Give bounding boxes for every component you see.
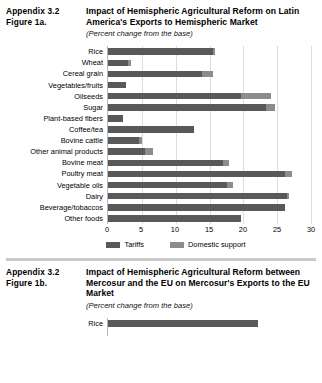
- bar-segment-tariffs: [108, 104, 266, 111]
- figure-1b-titlewrap: Impact of Hemispheric Agricultural Refor…: [84, 267, 314, 311]
- chart-row: Sugar: [108, 102, 311, 113]
- figure-1b-block: Appendix 3.2 Figure 1b. Impact of Hemisp…: [0, 261, 322, 336]
- chart-row: Oilseeds: [108, 91, 311, 102]
- category-label: Vegetable oils: [57, 181, 103, 190]
- bar-segment-tariffs: [108, 215, 241, 222]
- gridline: [311, 46, 312, 224]
- x-axis-tick: 20: [239, 225, 247, 234]
- bar-segment-tariffs: [108, 171, 285, 178]
- stacked-bar: [108, 115, 123, 122]
- figure-1b-subtitle: (Percent change from the base): [86, 301, 314, 311]
- figure-1a-x-axis: 051015202530: [107, 224, 311, 237]
- category-label: Bovine meat: [62, 158, 103, 167]
- figure-1b-title: Impact of Hemispheric Agricultural Refor…: [86, 267, 314, 299]
- bar-segment-tariffs: [108, 148, 145, 155]
- bar-segment-tariffs: [108, 126, 194, 133]
- category-label: Oilseeds: [74, 92, 103, 101]
- stacked-bar: [108, 126, 194, 133]
- category-label: Beverage/tobaccos: [40, 203, 103, 212]
- category-label: Other animal products: [30, 147, 103, 156]
- stacked-bar: [108, 71, 213, 78]
- bar-segment-tariffs: [108, 182, 227, 189]
- legend-label: Domestic support: [188, 240, 246, 249]
- bar-segment-tariffs: [108, 137, 139, 144]
- figure-1a-title: Impact of Hemispheric Agricultural Refor…: [86, 6, 314, 27]
- chart-row: Wheat: [108, 57, 311, 68]
- legend-swatch: [106, 242, 120, 248]
- figure-1a-appendix-text: Appendix 3.2: [6, 6, 84, 17]
- bar-segment-tariffs: [108, 193, 287, 200]
- figure-1a-label: Appendix 3.2 Figure 1a.: [6, 6, 84, 39]
- figure-1a-block: Appendix 3.2 Figure 1a. Impact of Hemisp…: [0, 0, 322, 249]
- figure-1b-appendix-text: Appendix 3.2: [6, 267, 84, 278]
- category-label: Vegetables/fruits: [48, 81, 103, 90]
- chart-row: Other foods: [108, 213, 311, 224]
- legend-item: Domestic support: [170, 240, 246, 249]
- figure-1b-label: Appendix 3.2 Figure 1b.: [6, 267, 84, 311]
- bar-segment-domestic-support: [128, 60, 131, 67]
- bar-segment-domestic-support: [285, 171, 292, 178]
- figure-1a-plot-area: RiceWheatCereal grainVegetables/fruitsOi…: [107, 46, 311, 224]
- x-axis-tick: 5: [139, 225, 143, 234]
- category-label: Rice: [88, 47, 103, 56]
- chart-row: Vegetable oils: [108, 180, 311, 191]
- bar-segment-domestic-support: [223, 160, 229, 167]
- chart-row: Vegetables/fruits: [108, 80, 311, 91]
- figure-1a-titlewrap: Impact of Hemispheric Agricultural Refor…: [84, 6, 314, 39]
- stacked-bar: [108, 60, 131, 67]
- figure-1b-chart: Rice: [0, 318, 322, 336]
- figure-1a-chart: RiceWheatCereal grainVegetables/fruitsOi…: [0, 46, 322, 249]
- chart-row: Plant-based fibers: [108, 113, 311, 124]
- chart-row: Poultry meat: [108, 168, 311, 179]
- stacked-bar: [108, 193, 289, 200]
- bar-segment-tariffs: [108, 48, 213, 55]
- category-label: Poultry meat: [62, 169, 104, 178]
- chart-row: Coffee/tea: [108, 124, 311, 135]
- x-axis-tick: 30: [307, 225, 315, 234]
- figure-1a-number-text: Figure 1a.: [6, 17, 84, 28]
- figure-1a-header: Appendix 3.2 Figure 1a. Impact of Hemisp…: [0, 0, 322, 39]
- category-label: Other foods: [64, 214, 103, 223]
- category-label: Coffee/tea: [69, 125, 103, 134]
- stacked-bar: [108, 182, 233, 189]
- category-label: Cereal grain: [63, 69, 103, 78]
- chart-row: Bovine cattle: [108, 135, 311, 146]
- stacked-bar: [108, 148, 153, 155]
- bar-segment-domestic-support: [145, 148, 153, 155]
- stacked-bar: [108, 171, 292, 178]
- stacked-bar: [108, 93, 271, 100]
- bar-segment-domestic-support: [202, 71, 214, 78]
- bar-segment-domestic-support: [227, 182, 233, 189]
- figure-1a-subtitle: (Percent change from the base): [86, 29, 314, 39]
- chart-row: Dairy: [108, 191, 311, 202]
- bar-segment-tariffs: [108, 204, 285, 211]
- stacked-bar: [108, 104, 275, 111]
- bar-segment-tariffs: [108, 82, 126, 89]
- bar-segment-tariffs: [108, 71, 202, 78]
- bar-segment-domestic-support: [287, 193, 289, 200]
- legend-item: Tariffs: [106, 240, 144, 249]
- category-label: Rice: [88, 319, 103, 328]
- stacked-bar: [108, 215, 241, 222]
- figure-1b-number-text: Figure 1b.: [6, 278, 84, 289]
- bar-segment-tariffs: [108, 160, 223, 167]
- stacked-bar: [108, 48, 215, 55]
- chart-row: Bovine meat: [108, 157, 311, 168]
- chart-row: Cereal grain: [108, 68, 311, 79]
- bar-segment-tariffs: [108, 115, 123, 122]
- category-label: Dairy: [86, 192, 103, 201]
- stacked-bar: [108, 204, 285, 211]
- bar-segment-domestic-support: [139, 137, 142, 144]
- legend-label: Tariffs: [124, 240, 144, 249]
- bar-segment-tariffs: [108, 60, 128, 67]
- bar-segment-tariffs: [108, 93, 241, 100]
- x-axis-tick: 0: [105, 225, 109, 234]
- figure-1b-plot-area: Rice: [107, 318, 311, 336]
- category-label: Sugar: [83, 103, 103, 112]
- x-axis-tick: 10: [171, 225, 179, 234]
- bar-segment-tariffs: [108, 320, 258, 327]
- bar-segment-domestic-support: [241, 93, 271, 100]
- stacked-bar: [108, 160, 229, 167]
- figure-1a-legend: TariffsDomestic support: [0, 240, 322, 249]
- category-label: Bovine cattle: [61, 136, 103, 145]
